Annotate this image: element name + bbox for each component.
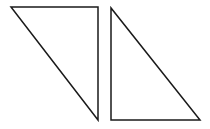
triangles-diagram bbox=[0, 0, 210, 129]
left-triangle bbox=[11, 7, 98, 120]
right-triangle bbox=[111, 8, 200, 120]
